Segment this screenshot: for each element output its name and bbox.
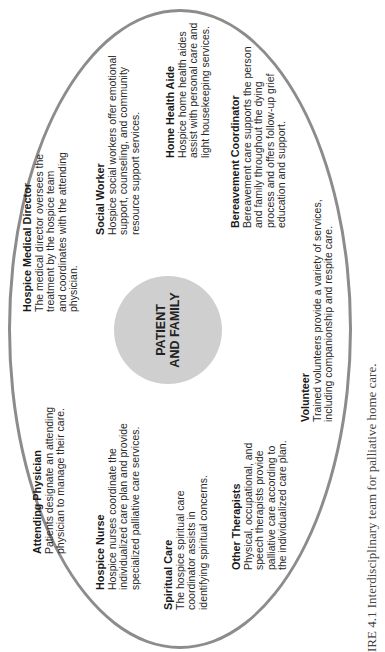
role-title: Other Therapists	[231, 440, 243, 570]
role-attending-physician: Attending Physician Patients designate a…	[32, 407, 67, 554]
role-desc-line: identifying spiritual concerns.	[198, 475, 210, 610]
role-title: Social Worker	[95, 55, 107, 235]
role-title: Spiritual Care	[163, 475, 175, 610]
role-desc-line: resource support services.	[130, 55, 142, 235]
patient-family-circle: PATIENT AND FAMILY	[114, 276, 222, 384]
center-label-line2: AND FAMILY	[168, 292, 182, 367]
diagram-canvas: PATIENT AND FAMILY Attending Physician P…	[0, 0, 385, 652]
role-desc-line: light housekeeping services.	[200, 23, 212, 158]
role-hospice-medical-director: Hospice Medical Director The medical dir…	[22, 152, 80, 312]
role-desc-line: including companionship and respite care…	[323, 199, 335, 422]
role-title: Home Health Aide	[165, 23, 177, 158]
role-home-health-aide: Home Health Aide Hospice home health aid…	[165, 23, 211, 158]
role-title: Hospice Nurse	[95, 423, 107, 590]
role-title: Attending Physician	[32, 407, 44, 554]
role-hospice-nurse: Hospice Nurse Hospice nurses coordinate …	[95, 423, 141, 590]
role-desc-line: physician.	[68, 152, 80, 312]
role-desc-line: education and support.	[276, 46, 288, 228]
center-label-line1: PATIENT	[154, 304, 168, 356]
role-desc-line: the individualized care plan.	[277, 440, 289, 570]
role-desc-line: specialized palliative care services.	[130, 423, 142, 590]
role-volunteer: Volunteer Trained volunteers provide a v…	[300, 199, 335, 422]
role-title: Hospice Medical Director	[22, 152, 34, 312]
role-title: Volunteer	[300, 199, 312, 422]
figure-caption: IRE 4.1 Interdisciplinary team for palli…	[364, 364, 380, 652]
role-title: Bereavement Coordinator	[230, 46, 242, 228]
role-other-therapists: Other Therapists Physical, occupational,…	[231, 440, 289, 570]
role-spiritual-care: Spiritual Care The hospice spiritual car…	[163, 475, 209, 610]
role-bereavement-coordinator: Bereavement Coordinator Bereavement care…	[230, 46, 288, 228]
role-desc-line: physician to manage their care.	[55, 407, 67, 554]
role-social-worker: Social Worker Hospice social workers off…	[95, 55, 141, 235]
